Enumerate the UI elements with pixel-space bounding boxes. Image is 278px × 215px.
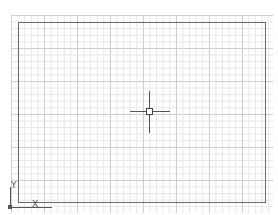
pickbox-cursor-icon bbox=[146, 108, 153, 115]
ucs-y-label: Y bbox=[11, 181, 17, 190]
drawing-viewport[interactable]: X Y bbox=[0, 0, 278, 215]
ucs-x-axis-icon bbox=[10, 207, 52, 208]
ucs-origin-icon bbox=[8, 205, 12, 209]
ucs-x-label: X bbox=[32, 200, 38, 209]
drawing-limits-border bbox=[18, 22, 266, 203]
